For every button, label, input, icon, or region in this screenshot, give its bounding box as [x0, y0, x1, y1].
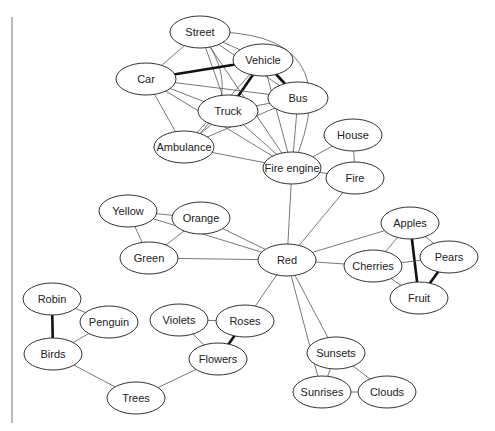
node-label: Truck: [214, 105, 242, 117]
node-yellow: Yellow: [99, 195, 157, 227]
node-label: House: [337, 129, 369, 141]
node-ambulance: Ambulance: [154, 131, 214, 163]
node-street: Street: [170, 16, 230, 48]
node-truck: Truck: [198, 95, 258, 127]
semantic-network-diagram: StreetVehicleCarBusTruckAmbulanceFire en…: [0, 0, 495, 431]
node-label: Cherries: [352, 260, 394, 272]
node-house: House: [324, 119, 382, 151]
node-label: Fire: [346, 172, 365, 184]
node-birds: Birds: [24, 338, 82, 370]
node-label: Sunrises: [301, 386, 344, 398]
node-label: Yellow: [112, 205, 143, 217]
node-penguin: Penguin: [80, 306, 138, 338]
node-clouds: Clouds: [358, 376, 416, 408]
node-label: Roses: [229, 315, 261, 327]
node-orange: Orange: [172, 202, 230, 234]
node-flowers: Flowers: [189, 343, 247, 375]
node-apples: Apples: [381, 207, 439, 239]
edge-red-sunrises: [287, 260, 322, 392]
node-red: Red: [258, 244, 316, 276]
node-label: Red: [277, 254, 297, 266]
node-label: Robin: [38, 293, 67, 305]
node-fire: Fire: [326, 162, 384, 194]
node-cherries: Cherries: [344, 250, 402, 282]
node-robin: Robin: [23, 283, 81, 315]
node-label: Green: [134, 252, 165, 264]
node-trees: Trees: [107, 382, 165, 414]
node-label: Sunsets: [316, 347, 356, 359]
node-label: Fruit: [408, 292, 430, 304]
node-label: Orange: [183, 212, 220, 224]
node-label: Ambulance: [156, 141, 211, 153]
node-roses: Roses: [216, 305, 274, 337]
edge-street-ambulance: [184, 32, 222, 147]
node-label: Street: [185, 26, 214, 38]
node-fire_engine: Fire engine: [263, 152, 321, 184]
node-label: Pears: [435, 251, 464, 263]
node-vehicle: Vehicle: [233, 44, 293, 76]
node-violets: Violets: [150, 304, 208, 336]
nodes-layer: StreetVehicleCarBusTruckAmbulanceFire en…: [23, 16, 478, 414]
node-car: Car: [116, 63, 176, 95]
node-label: Penguin: [89, 316, 129, 328]
node-label: Apples: [393, 217, 427, 229]
node-label: Vehicle: [245, 54, 280, 66]
node-label: Fire engine: [264, 162, 319, 174]
node-pears: Pears: [420, 241, 478, 273]
node-sunrises: Sunrises: [293, 376, 351, 408]
node-fruit: Fruit: [390, 282, 448, 314]
node-sunsets: Sunsets: [307, 337, 365, 369]
node-label: Car: [137, 73, 155, 85]
node-label: Trees: [122, 392, 150, 404]
node-green: Green: [120, 242, 178, 274]
node-bus: Bus: [268, 82, 328, 114]
node-label: Violets: [163, 314, 196, 326]
node-label: Bus: [289, 92, 308, 104]
node-label: Flowers: [199, 353, 238, 365]
node-label: Clouds: [370, 386, 405, 398]
node-label: Birds: [40, 348, 66, 360]
